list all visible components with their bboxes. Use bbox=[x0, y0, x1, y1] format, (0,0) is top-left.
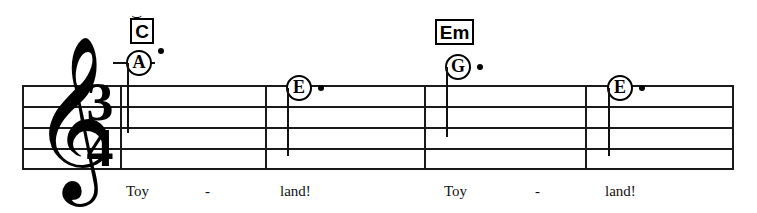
barline-start bbox=[22, 85, 24, 170]
lyric-syllable-2: land! bbox=[280, 183, 311, 200]
time-signature-denominator: 4 bbox=[78, 125, 122, 171]
note-stem-e-2 bbox=[608, 88, 610, 156]
augmentation-dot-g bbox=[477, 64, 483, 70]
time-signature: 3 4 bbox=[78, 79, 122, 172]
note-head-a[interactable]: A bbox=[126, 50, 152, 76]
augmentation-dot-e-1 bbox=[318, 85, 324, 91]
augmentation-dot-e-2 bbox=[639, 85, 645, 91]
staff-line-4 bbox=[22, 148, 734, 150]
note-head-e-1[interactable]: E bbox=[286, 75, 312, 101]
note-head-g[interactable]: G bbox=[445, 54, 471, 80]
augmentation-dot-a bbox=[158, 48, 164, 54]
barline-end bbox=[732, 85, 734, 170]
note-stem-g bbox=[446, 67, 448, 137]
chord-symbol-c[interactable]: C bbox=[130, 18, 154, 44]
lyric-syllable-1: Toy bbox=[126, 183, 149, 200]
chord-symbol-em[interactable]: Em bbox=[435, 19, 474, 45]
lyric-hyphen-1: - bbox=[205, 183, 210, 200]
note-stem-e-1 bbox=[287, 88, 289, 156]
sheet-music-score: 𝄞 3 4 ⌣ C Em A E G E Toy - land! Toy - l… bbox=[0, 0, 757, 213]
lyric-syllable-4: land! bbox=[605, 183, 636, 200]
barline-2 bbox=[265, 85, 267, 170]
note-head-e-2[interactable]: E bbox=[607, 75, 633, 101]
barline-3 bbox=[424, 85, 426, 170]
note-stem-a bbox=[127, 63, 129, 133]
lyric-syllable-3: Toy bbox=[444, 183, 467, 200]
barline-4 bbox=[585, 85, 587, 170]
lyric-hyphen-2: - bbox=[535, 183, 540, 200]
staff-line-5 bbox=[22, 168, 734, 170]
